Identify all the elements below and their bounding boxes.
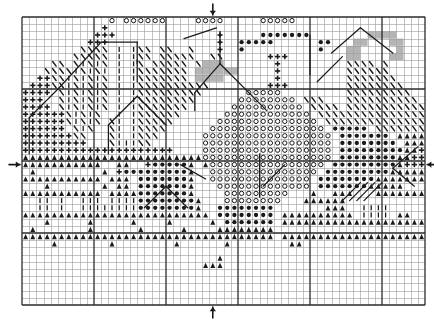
cross-stitch-chart [0, 0, 434, 324]
pattern-chart-page: Cross Stitch Pattern Chart [0, 0, 434, 324]
